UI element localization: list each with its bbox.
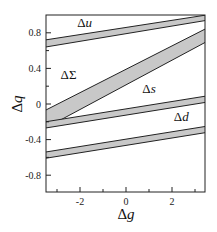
y-tick-label: -0.4	[25, 134, 41, 145]
band-label: Δs	[142, 81, 155, 96]
x-axis-label: Δg	[117, 206, 135, 222]
band-lower-line	[46, 132, 207, 158]
x-tick-label: 2	[170, 196, 175, 207]
band-Δd	[46, 126, 207, 158]
band-upper-line	[46, 15, 207, 40]
y-tick-label: 0.4	[29, 63, 42, 74]
y-tick-label: 0	[36, 99, 41, 110]
band-label: ΔΣ	[61, 67, 77, 82]
chart: 0.80.40-0.4-0.8-202 ΔuΔΣΔsΔd Δg Δq	[0, 0, 217, 232]
band-label: Δu	[77, 15, 92, 30]
x-tick-label: -2	[76, 196, 84, 207]
band-label: Δd	[174, 109, 189, 124]
y-tick-label: 0.8	[29, 27, 42, 38]
y-tick-label: -0.8	[25, 170, 41, 181]
y-axis-label: Δq	[9, 95, 25, 113]
band-upper-line	[46, 126, 207, 152]
bands	[46, 15, 207, 158]
